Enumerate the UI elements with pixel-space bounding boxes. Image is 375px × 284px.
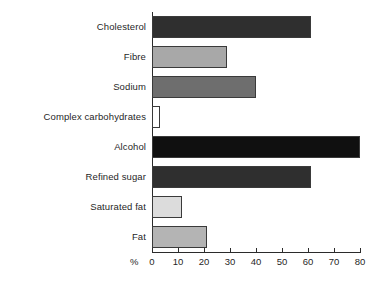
x-axis-tick [230,248,231,252]
x-axis-tick [204,248,205,252]
bar [152,196,182,218]
x-axis-tick [308,248,309,252]
x-axis-tick [152,248,153,252]
bar [152,106,160,128]
x-axis-tick [360,248,361,252]
bar [152,16,311,38]
plot-area: 01020304050607080 [0,0,375,284]
bar-chart: CholesterolFibreSodiumComplex carbohydra… [0,0,375,284]
bar [152,76,256,98]
x-axis-line [152,252,361,253]
bar [152,46,227,68]
bar [152,136,360,158]
x-axis-tick-label: 80 [345,257,375,267]
x-axis-tick [334,248,335,252]
x-axis-unit-label: % [130,257,138,267]
bar [152,166,311,188]
x-axis-tick [282,248,283,252]
x-axis-tick [178,248,179,252]
x-axis-tick [256,248,257,252]
bar [152,226,207,248]
